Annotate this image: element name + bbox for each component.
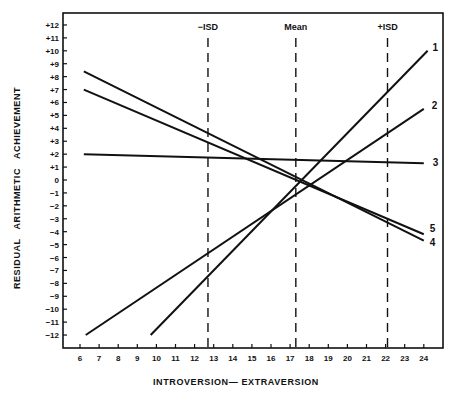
y-tick-label: −3 <box>50 215 60 224</box>
series-label-2: 2 <box>432 100 438 111</box>
y-tick-label: +3 <box>50 137 60 146</box>
x-tick-label: 23 <box>400 354 409 363</box>
y-tick-label: −1 <box>50 189 60 198</box>
y-tick-label: −7 <box>50 266 60 275</box>
x-tick-label: 7 <box>97 354 102 363</box>
x-tick-label: 22 <box>381 354 390 363</box>
y-tick-label: +10 <box>45 47 59 56</box>
y-tick-label: +6 <box>50 98 60 107</box>
x-tick-label: 12 <box>190 354 199 363</box>
x-tick-label: 16 <box>267 354 276 363</box>
y-tick-label: −8 <box>50 279 60 288</box>
reference-line-label: +ISD <box>377 22 398 32</box>
y-tick-label: −11 <box>46 318 60 327</box>
x-tick-label: 9 <box>135 354 140 363</box>
y-tick-label: −4 <box>50 228 60 237</box>
x-axis-title: INTROVERSION— EXTRAVERSION <box>153 377 319 387</box>
series-label-4: 4 <box>430 237 436 248</box>
x-tick-label: 8 <box>116 354 121 363</box>
series-label-5: 5 <box>430 223 436 234</box>
x-tick-label: 6 <box>78 354 83 363</box>
reference-line-label: Mean <box>284 22 307 32</box>
x-tick-label: 17 <box>286 354 295 363</box>
y-tick-label: −10 <box>45 305 59 314</box>
y-tick-label: +4 <box>50 124 60 133</box>
plot-frame <box>63 13 443 348</box>
series-line-1 <box>151 51 428 335</box>
x-tick-label: 14 <box>228 354 237 363</box>
y-tick-label: −9 <box>50 292 60 301</box>
y-tick-label: −2 <box>50 202 60 211</box>
y-axis-title: RESIDUAL ARITHMETIC ACHIEVEMENT <box>12 87 22 289</box>
x-tick-label: 11 <box>171 354 180 363</box>
y-tick-label: +9 <box>50 60 60 69</box>
x-tick-label: 21 <box>362 354 371 363</box>
y-tick-label: −5 <box>50 241 60 250</box>
y-tick-label: +12 <box>45 21 59 30</box>
x-tick-label: 15 <box>247 354 256 363</box>
x-tick-label: 10 <box>152 354 161 363</box>
y-tick-label: +11 <box>46 34 60 43</box>
series-label-3: 3 <box>433 157 439 168</box>
y-tick-label: +1 <box>50 163 60 172</box>
reference-line-label: −ISD <box>198 22 219 32</box>
x-axis: 6789101112131415161718192021222324 <box>78 344 429 363</box>
y-tick-label: −6 <box>50 254 60 263</box>
series-lines: 12345 <box>84 42 439 335</box>
x-tick-label: 20 <box>343 354 352 363</box>
series-line-2 <box>86 109 424 335</box>
x-tick-label: 19 <box>324 354 333 363</box>
x-tick-label: 18 <box>305 354 314 363</box>
x-tick-label: 24 <box>419 354 428 363</box>
y-tick-label: +7 <box>50 86 60 95</box>
chart: +12+11+10+9+8+7+6+5+4+3+2+10−1−2−3−4−5−6… <box>0 0 453 393</box>
x-tick-label: 13 <box>209 354 218 363</box>
series-label-1: 1 <box>433 42 439 53</box>
y-tick-label: 0 <box>55 176 60 185</box>
y-tick-label: +2 <box>50 150 60 159</box>
y-tick-label: −12 <box>45 331 59 340</box>
y-tick-label: +5 <box>50 111 60 120</box>
y-tick-label: +8 <box>50 73 60 82</box>
